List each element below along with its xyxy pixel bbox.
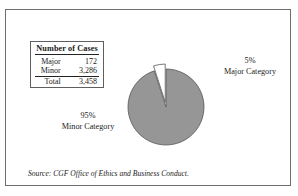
- table-row: Major 172: [35, 57, 99, 67]
- pie-slice-minor-category: [128, 69, 204, 145]
- table-cell-label-major: Major: [35, 57, 66, 67]
- table-cell-label-minor: Minor: [35, 66, 66, 76]
- figure-root: Number of Cases Major 172 Minor 3,286 To…: [0, 0, 298, 196]
- source-note-lead: Source:: [28, 169, 51, 178]
- cases-table-title: Number of Cases: [35, 44, 99, 55]
- table-row-total: Total 3,458: [35, 76, 99, 86]
- source-note: Source: CGF Office of Ethics and Busines…: [28, 169, 189, 178]
- source-note-text: CGF Office of Ethics and Business Conduc…: [51, 169, 189, 178]
- table-cell-label-total: Total: [35, 76, 66, 86]
- table-row: Minor 3,286: [35, 66, 99, 76]
- cases-table-grid: Major 172 Minor 3,286 Total 3,458: [35, 57, 99, 87]
- table-cell-value-total: 3,458: [66, 76, 99, 86]
- figure-frame: Number of Cases Major 172 Minor 3,286 To…: [5, 9, 291, 186]
- table-cell-value-minor: 3,286: [66, 66, 99, 76]
- label-minor-name: Minor Category: [38, 122, 138, 133]
- label-minor-category: 95% Minor Category: [38, 111, 138, 132]
- label-minor-percent: 95%: [38, 111, 138, 122]
- label-major-category: 5% Major Category: [202, 56, 298, 77]
- label-major-percent: 5%: [202, 56, 298, 67]
- label-major-name: Major Category: [202, 67, 298, 78]
- table-cell-value-major: 172: [66, 57, 99, 67]
- pie-chart: [118, 54, 208, 160]
- cases-table: Number of Cases Major 172 Minor 3,286 To…: [30, 41, 104, 88]
